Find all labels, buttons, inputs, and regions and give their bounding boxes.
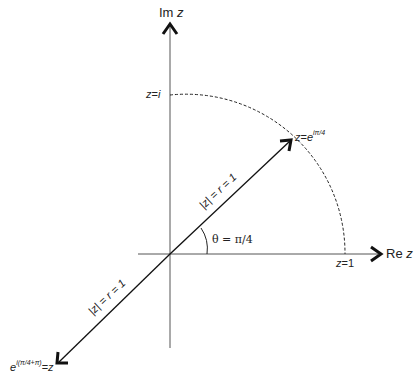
real-var: z xyxy=(406,246,413,261)
real-axis-label: Re z xyxy=(386,247,413,260)
point-label-z-e-ipi4: z=eiπ/4 xyxy=(295,132,325,143)
point-label-z-i: z=i xyxy=(146,89,160,100)
complex-plane-diagram: Im z Re z z=i z=1 z=eiπ/4 ei(π/4+π)=z |z… xyxy=(0,0,417,382)
angle-arc xyxy=(201,228,207,254)
imag-var: z xyxy=(177,5,184,20)
z-e-exponent: iπ/4 xyxy=(313,129,325,136)
e-rhs: z xyxy=(48,361,54,373)
z-1-rhs: 1 xyxy=(348,257,354,269)
imaginary-axis-label: Im z xyxy=(159,6,184,19)
real-prefix: Re xyxy=(386,246,403,261)
point-label-z-1: z=1 xyxy=(336,258,354,269)
point-label-e-ipi4-plus-pi: ei(π/4+π)=z xyxy=(10,362,54,373)
lower-vector-line xyxy=(59,254,170,362)
imag-prefix: Im xyxy=(159,5,173,20)
e-exponent: i(π/4+π) xyxy=(16,359,42,366)
lower-vector-arrowhead xyxy=(57,352,68,363)
angle-label: θ = π/4 xyxy=(212,234,253,245)
z-i-rhs: i xyxy=(158,88,160,100)
